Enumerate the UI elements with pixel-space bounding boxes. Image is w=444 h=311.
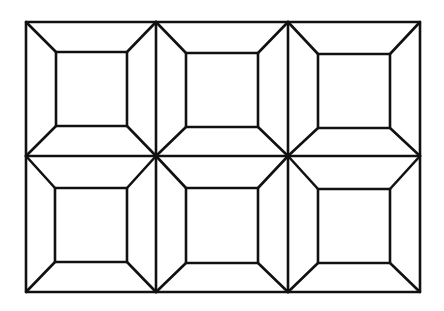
inner-square — [55, 188, 127, 262]
corner-diagonal — [390, 128, 420, 156]
corner-diagonal — [288, 128, 318, 156]
corner-diagonal — [258, 156, 288, 188]
corner-diagonal — [288, 22, 318, 54]
corner-diagonal — [258, 22, 288, 53]
corner-diagonal — [288, 156, 318, 189]
corner-diagonal — [156, 22, 186, 53]
inner-square — [56, 52, 127, 126]
corner-diagonal — [127, 156, 156, 188]
corner-diagonal — [26, 262, 55, 292]
corner-diagonal — [127, 262, 156, 292]
corner-diagonal — [258, 127, 288, 156]
corner-diagonal — [156, 156, 186, 188]
corner-diagonal — [26, 156, 55, 188]
corner-diagonal — [390, 22, 420, 54]
corner-diagonal — [390, 156, 420, 189]
corner-diagonal — [127, 126, 156, 156]
inner-square — [318, 189, 390, 263]
inner-square — [318, 54, 390, 128]
corner-diagonal — [258, 263, 288, 292]
corner-diagonal — [127, 22, 156, 52]
corner-diagonal — [288, 263, 318, 292]
inner-square — [186, 188, 258, 263]
corner-diagonal — [156, 263, 186, 292]
corner-diagonal — [26, 126, 56, 156]
corner-diagonal — [390, 263, 420, 292]
corner-diagonal — [26, 22, 56, 52]
diagram-canvas — [0, 0, 444, 311]
corner-diagonal — [156, 127, 186, 156]
tessellation-diagram — [0, 0, 444, 311]
inner-square — [186, 53, 258, 127]
